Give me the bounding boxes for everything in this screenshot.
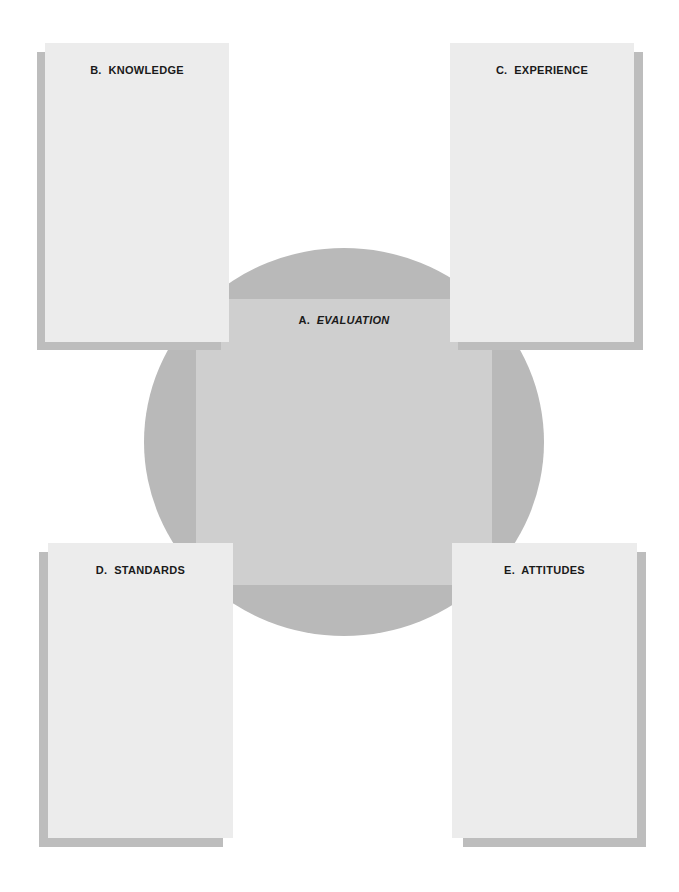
card-title: B. KNOWLEDGE	[45, 64, 229, 76]
card-title: C. EXPERIENCE	[450, 64, 634, 76]
evaluation-label: A. EVALUATION	[196, 314, 492, 326]
card-knowledge: B. KNOWLEDGE	[45, 43, 229, 342]
card-letter: D.	[96, 564, 108, 576]
card-label: KNOWLEDGE	[108, 64, 183, 76]
header-fragment	[16, 0, 40, 4]
clipped-page-header	[0, 0, 679, 4]
card-label: EXPERIENCE	[514, 64, 588, 76]
card-experience: C. EXPERIENCE	[450, 43, 634, 342]
card-letter: B.	[90, 64, 102, 76]
card-letter: C.	[496, 64, 508, 76]
evaluation-square	[196, 299, 492, 585]
card-label: ATTITUDES	[521, 564, 585, 576]
card-title: D. STANDARDS	[48, 564, 233, 576]
card-title: E. ATTITUDES	[452, 564, 637, 576]
header-fragment	[68, 0, 184, 4]
center-letter: A.	[298, 314, 310, 326]
card-letter: E.	[504, 564, 515, 576]
card-attitudes: E. ATTITUDES	[452, 543, 637, 838]
card-standards: D. STANDARDS	[48, 543, 233, 838]
card-label: STANDARDS	[114, 564, 185, 576]
center-label-text: EVALUATION	[317, 314, 390, 326]
